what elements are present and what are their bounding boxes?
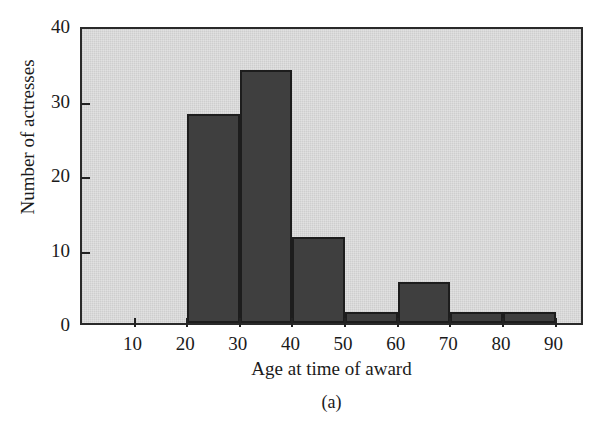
y-axis-tick-label: 0 [30,315,70,334]
x-axis-tick [555,318,557,327]
x-axis-tick-label: 10 [111,334,155,353]
x-axis-tick-label: 80 [479,334,523,353]
x-axis-tick-label: 20 [163,334,207,353]
panel-caption: (a) [80,392,583,413]
x-axis-title: Age at time of award [80,358,583,380]
x-axis-tick [344,318,346,327]
y-axis-tick [81,103,90,105]
x-axis-tick [186,318,188,327]
histogram-bar [345,312,398,323]
plot-area [80,27,583,325]
x-axis-tick-label: 90 [532,334,576,353]
x-axis-tick-label: 30 [216,334,260,353]
y-axis-title: Number of actresses [17,27,39,247]
cropped-caption-sliver [120,0,480,3]
x-axis-tick [502,318,504,327]
y-axis-tick [81,177,90,179]
histogram-bar [240,70,293,323]
histogram-bar [503,312,556,323]
histogram-bar [292,237,345,323]
x-axis-tick [291,318,293,327]
histogram-bar [187,114,240,323]
x-axis-tick-label: 50 [321,334,365,353]
x-axis-tick-label: 60 [374,334,418,353]
x-axis-tick [449,318,451,327]
x-axis-tick [397,318,399,327]
y-axis-tick [81,252,90,254]
figure-panel-a: 010203040 Number of actresses 1020304050… [0,0,615,428]
x-axis-tick-label: 70 [426,334,470,353]
histogram-bar [450,312,503,323]
x-axis-tick [134,318,136,327]
histogram-bar [398,282,451,323]
x-axis-tick [239,318,241,327]
x-axis-tick-label: 40 [268,334,312,353]
